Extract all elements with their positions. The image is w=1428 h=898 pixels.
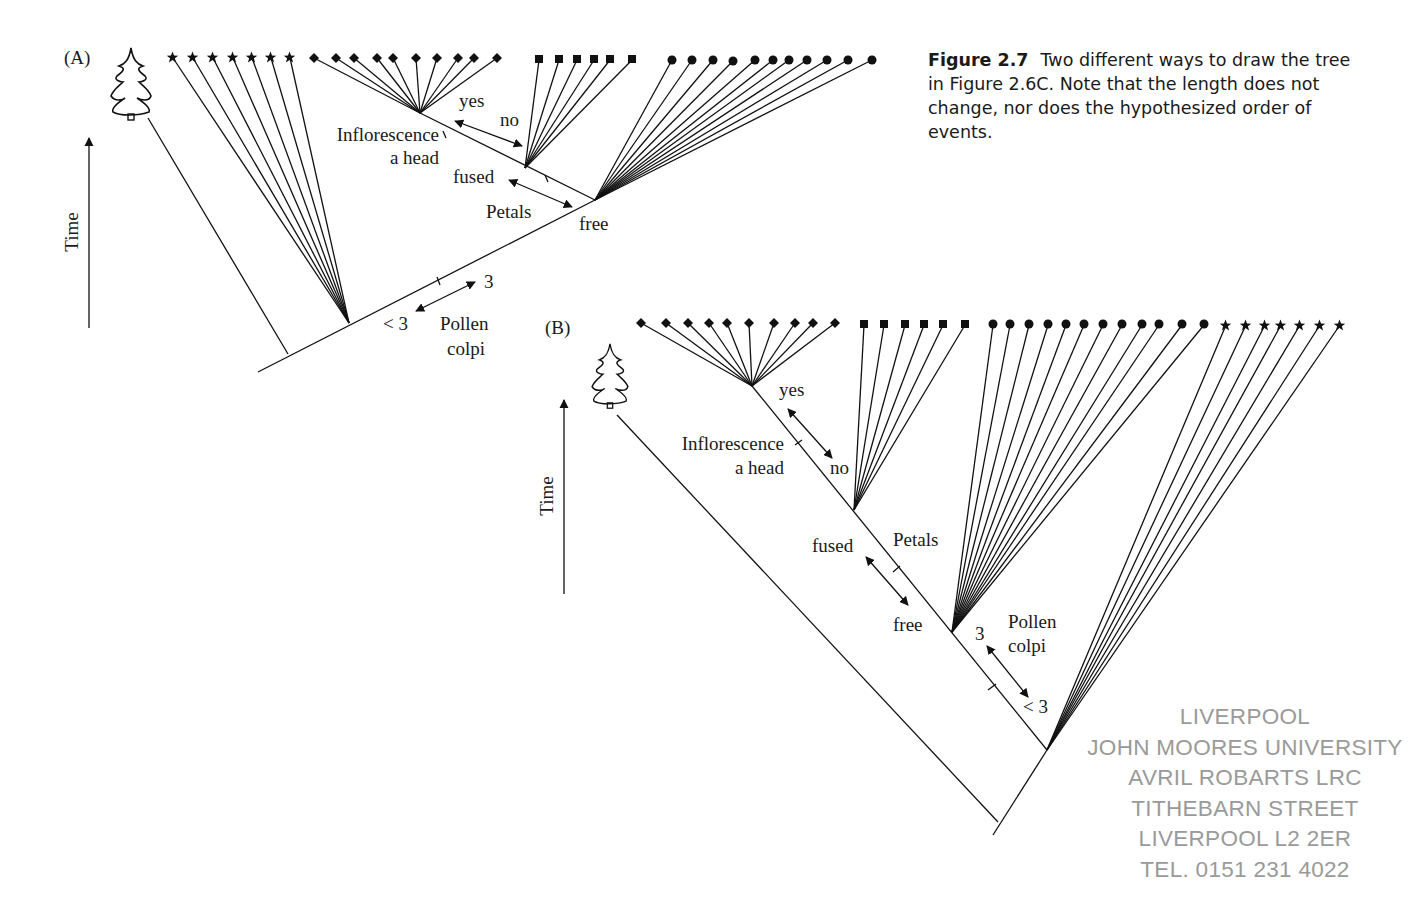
a-inflorescence-label-2: a head	[390, 147, 440, 168]
a-inflorescence-state-no: no	[500, 109, 519, 130]
panel-a-time-label: Time	[61, 212, 82, 251]
backbone-b-root	[993, 750, 1047, 835]
a-petals-state-free: free	[579, 213, 609, 234]
b-circle-taxa	[989, 320, 1209, 329]
outgroup-tree-icon	[111, 48, 151, 120]
b-square-taxa	[860, 320, 969, 328]
star-clade-branches	[173, 58, 349, 323]
a-pollen-state-lt3: < 3	[383, 313, 408, 334]
a-inflorescence-state-yes: yes	[459, 90, 484, 111]
square-taxa	[535, 55, 636, 63]
square-clade-branches	[525, 60, 632, 168]
circle-taxa	[668, 56, 877, 66]
diamond-taxa	[309, 53, 502, 63]
b-petals-state-fused: fused	[812, 535, 854, 556]
a-inflorescence-label-1: Inflorescence	[337, 124, 439, 145]
b-square-clade-branches	[854, 325, 965, 510]
b-diamond-clade-branches	[641, 323, 835, 386]
panel-b-time-label: Time	[536, 476, 557, 515]
b-inflorescence-state-yes: yes	[779, 379, 804, 400]
b-pollen-label-1: Pollen	[1008, 611, 1057, 632]
b-arrow-petals	[866, 557, 908, 605]
b-inflorescence-state-no: no	[830, 457, 849, 478]
b-tick-petals	[893, 566, 900, 572]
outgroup-tree-icon-b	[592, 344, 628, 408]
backbone-b-upper	[752, 386, 1047, 750]
stamp-line: TEL. 0151 231 4022	[1062, 855, 1428, 886]
stamp-line: AVRIL ROBARTS LRC	[1062, 763, 1428, 794]
library-stamp: LIVERPOOL JOHN MOORES UNIVERSITY AVRIL R…	[1062, 702, 1428, 885]
stamp-line: TITHEBARN STREET	[1062, 794, 1428, 825]
panel-b-taxa	[636, 318, 1345, 330]
b-circle-clade-branches	[952, 325, 1204, 632]
b-inflorescence-label-2: a head	[735, 457, 785, 478]
backbone-lower	[258, 200, 595, 372]
figure-label: Figure 2.7	[928, 50, 1029, 70]
b-pollen-state-3: 3	[975, 623, 985, 644]
b-inflorescence-label-1: Inflorescence	[682, 433, 784, 454]
b-star-taxa	[1220, 320, 1345, 331]
figure-caption: Figure 2.7Two different ways to draw the…	[928, 48, 1358, 144]
tick-inflorescence	[443, 131, 446, 138]
star-taxa	[167, 52, 295, 63]
a-pollen-label-1: Pollen	[440, 313, 489, 334]
b-pollen-label-2: colpi	[1008, 635, 1046, 656]
b-tick-pollen	[988, 684, 996, 690]
a-pollen-state-3: 3	[484, 271, 494, 292]
panel-b-label: (B)	[545, 317, 570, 339]
b-star-clade-branches	[1047, 325, 1340, 750]
outgroup-branch	[148, 118, 288, 354]
panel-a-label: (A)	[64, 47, 90, 69]
stamp-line: LIVERPOOL L2 2ER	[1062, 824, 1428, 855]
b-arrow-inflorescence	[788, 409, 832, 458]
a-petals-state-fused: fused	[453, 166, 495, 187]
circle-clade-branches	[595, 60, 872, 200]
stamp-line: JOHN MOORES UNIVERSITY	[1062, 733, 1428, 764]
b-petals-label: Petals	[893, 529, 938, 550]
stamp-line: LIVERPOOL	[1062, 702, 1428, 733]
b-pollen-state-lt3: < 3	[1023, 696, 1048, 717]
a-petals-label: Petals	[486, 201, 531, 222]
a-pollen-label-2: colpi	[447, 338, 485, 359]
b-petals-state-free: free	[893, 614, 923, 635]
